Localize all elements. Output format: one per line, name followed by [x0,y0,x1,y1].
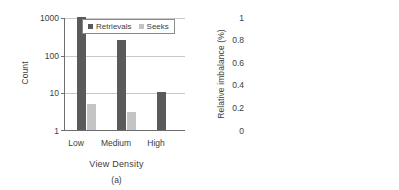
bar-seeks-medium [127,112,136,130]
x-tick-label-medium: Medium [96,139,136,148]
y-tick-label-10: 10 [26,89,59,98]
bar-seeks-low [87,104,96,130]
x-tick-label-high: High [136,139,176,148]
panel-caption-a: (a) [44,176,189,185]
y-tick-label-0: 0 [217,127,244,136]
bar-retrievals-medium [117,40,126,130]
y-tick-label-0.8: 0.8 [217,36,244,45]
chart-panel-b: Relative imbalance (%) 1 0.8 0.6 0.4 0.2… [199,0,399,190]
legend-item-retrievals: Retrievals [88,23,132,31]
y-tick-label-1000: 1000 [26,14,59,23]
y-tick-label-0.2: 0.2 [217,104,244,113]
legend-label-seeks: Seeks [147,23,169,31]
legend-label-retrievals: Retrievals [96,23,132,31]
y-tick-label-0.6: 0.6 [217,59,244,68]
x-tick-label-low: Low [56,139,96,148]
y-tick-label-0.4: 0.4 [217,81,244,90]
chart-panel-a: Count 1000 100 10 1 [0,0,199,190]
legend-swatch-retrievals-icon [88,24,93,29]
y-tickmark-1000 [61,18,65,19]
y-tick-label-1: 1 [217,14,244,23]
legend-a: Retrievals Seeks [82,19,175,34]
y-tick-label-100: 100 [26,52,59,61]
x-axis-label-a: View Density [44,160,189,169]
figure-container: Count 1000 100 10 1 [0,0,399,190]
y-tick-label-1: 1 [26,127,59,136]
legend-swatch-seeks-icon [139,24,144,29]
plot-area-a: Retrievals Seeks [64,18,185,131]
y-tickmark-100 [61,56,65,57]
y-axis-label-b: Relative imbalance (%) [216,15,226,133]
y-tickmark-1 [61,130,65,131]
bar-retrievals-high [157,92,166,130]
legend-item-seeks: Seeks [139,23,169,31]
y-tickmark-10 [61,93,65,94]
